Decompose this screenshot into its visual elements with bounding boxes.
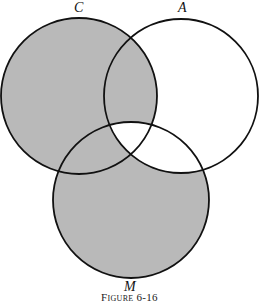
- venn-diagram: [0, 0, 259, 305]
- shaded-outside-a: [1, 18, 209, 278]
- label-c: C: [74, 1, 83, 15]
- figure-caption: Figure 6-16: [0, 291, 259, 303]
- label-a: A: [178, 1, 187, 15]
